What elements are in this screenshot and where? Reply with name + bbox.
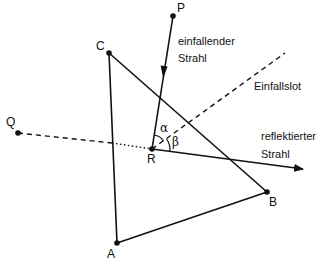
- point-r: [149, 146, 155, 152]
- reflection-diagram: P C Q R B A einfallender Strahl Einfalls…: [0, 0, 320, 265]
- normal-label: Einfallslot: [254, 80, 301, 92]
- point-b: [264, 189, 270, 195]
- side-ab: [117, 192, 267, 243]
- label-q: Q: [6, 115, 15, 129]
- point-q: [15, 130, 21, 136]
- q-dashed-line: [18, 133, 112, 143]
- side-ca: [109, 53, 117, 243]
- incident-ray-label-2: Strahl: [178, 52, 207, 64]
- point-c: [106, 50, 112, 56]
- reflected-ray-label-2: Strahl: [261, 148, 290, 160]
- side-cb: [109, 53, 267, 192]
- point-a: [114, 240, 120, 246]
- angle-beta-label: β: [172, 135, 179, 149]
- angle-alpha-label: α: [160, 121, 168, 135]
- incident-ray-label-1: einfallender: [178, 35, 235, 47]
- label-b: B: [269, 195, 277, 209]
- label-c: C: [96, 39, 105, 53]
- angle-beta-arc: [167, 139, 170, 151]
- label-p: P: [177, 1, 185, 15]
- label-a: A: [107, 247, 115, 261]
- point-p: [170, 13, 176, 19]
- angle-alpha-arc: [154, 135, 163, 141]
- q-dotted-line: [112, 143, 152, 149]
- label-r: R: [147, 152, 156, 166]
- reflected-ray-label-1: reflektierter: [261, 130, 316, 142]
